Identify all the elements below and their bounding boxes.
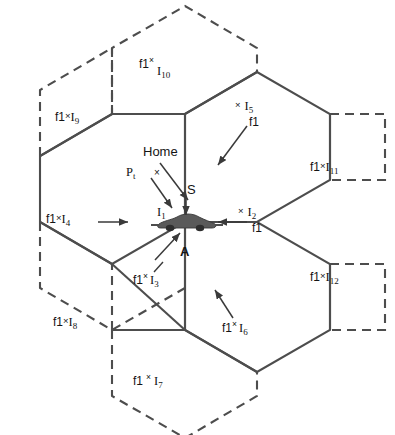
cell-label-i10: f1×I10	[139, 56, 170, 73]
cell-label-i2-f1: f1	[252, 222, 262, 235]
cell-label-i3-f1: f1	[133, 273, 143, 287]
i1-label: I1	[157, 206, 166, 221]
tick-i3	[154, 262, 163, 272]
cell-label-i9-f1: f1	[55, 110, 65, 124]
cell-label-i7-sub: 7	[158, 380, 163, 390]
cell-label-i2-times: ×	[238, 205, 244, 216]
cell-label-i12: f1×I12	[310, 271, 339, 286]
cell-label-i11: f1×I11	[310, 161, 338, 176]
cell-label-i8-sub: 8	[73, 321, 78, 331]
arrow-pt-to-i1	[151, 178, 172, 208]
cell-label-i2-sub: 2	[252, 211, 257, 221]
cell-label-i3-sub: 3	[154, 279, 159, 289]
cell-label-i12-sub: 12	[330, 276, 339, 286]
cell-label-i5-f1: f1	[249, 116, 259, 129]
cell-label-i11-sub: 11	[330, 166, 339, 176]
cell-label-i6: f1×I6	[222, 320, 248, 337]
cell-label-i9-sub: 9	[75, 116, 80, 126]
pt-label-P: P	[126, 165, 133, 179]
cell-label-i5-sub: 5	[249, 105, 254, 115]
cell-label-i9: f1×I9	[55, 111, 79, 126]
pt-label-sub: t	[133, 171, 136, 181]
arrow-i5	[218, 126, 247, 165]
cell-label-i3: f1×I3	[133, 272, 159, 289]
cell-label-i5-times: ×	[235, 99, 241, 110]
cell-label-i10-f1: f1	[139, 57, 149, 71]
cell-label-i3-times: ×	[143, 271, 148, 281]
cell-label-i6-sub: 6	[243, 327, 248, 337]
cell-label-i12-f1: f1	[310, 270, 320, 284]
arrow-i6	[215, 290, 233, 318]
cell-label-i8-f1: f1	[53, 315, 63, 329]
s-label: S	[187, 183, 196, 197]
a-label: A	[180, 245, 189, 259]
cell-label-i7: f1×I7	[133, 373, 163, 390]
cell-label-i7-times: ×	[146, 372, 151, 382]
cell-label-i4-sub: 4	[66, 218, 71, 228]
cell-label-i6-times: ×	[232, 319, 237, 329]
i1-label-sub: 1	[161, 211, 166, 221]
arrow-home-to-s	[160, 163, 188, 200]
cell-label-i5: ×I5 f1	[235, 100, 259, 129]
cell-label-i8: f1×I8	[53, 316, 77, 331]
cell-label-i4: f1×I4	[46, 213, 70, 228]
home-x-mark: ×	[154, 168, 160, 179]
cell-label-i11-f1: f1	[310, 160, 320, 174]
cell-label-i10-times: ×	[149, 55, 154, 65]
cell-label-i2: ×I2 f1	[238, 206, 262, 235]
cell-label-i6-f1: f1	[222, 321, 232, 335]
home-label: Home	[143, 145, 178, 159]
cell-label-i4-f1: f1	[46, 212, 56, 226]
figure-canvas: f1×I10 f1×I9 ×I5 f1 f1×I11 f1×I4 ×I2 f1 …	[0, 0, 395, 435]
pt-label: Pt	[126, 166, 135, 181]
cell-label-i10-sub: 10	[161, 70, 170, 80]
cell-label-i7-f1: f1	[133, 374, 143, 388]
